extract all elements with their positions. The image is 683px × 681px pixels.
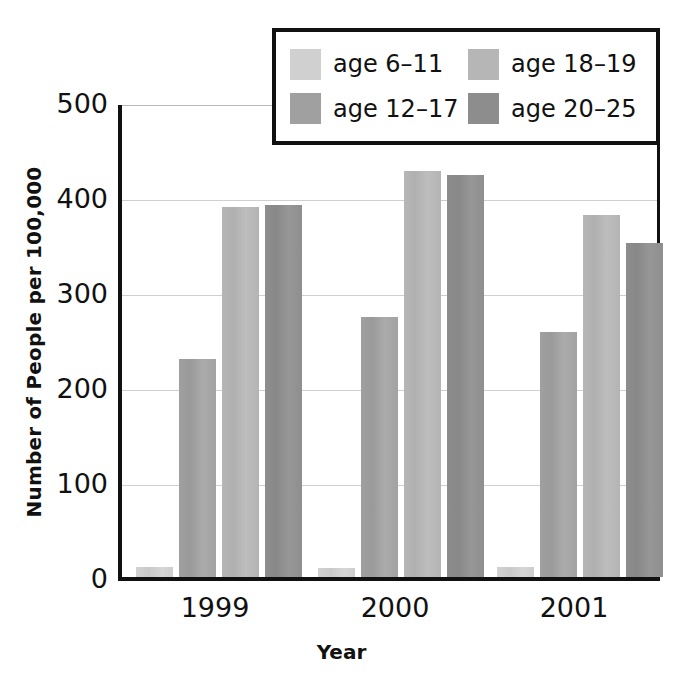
bar-fill xyxy=(583,215,620,577)
bar-fill xyxy=(318,568,355,577)
bar-fill xyxy=(404,171,441,578)
bar-2000-age-20-25[interactable] xyxy=(447,175,484,577)
bar-2001-age-12-17[interactable] xyxy=(540,332,577,577)
bar-2000-age-18-19[interactable] xyxy=(404,171,441,578)
bar-2000-age-12-17[interactable] xyxy=(361,317,398,577)
bar-fill xyxy=(136,567,173,577)
legend-entry-age-12-17[interactable]: age 12–17 xyxy=(290,93,468,124)
legend-swatch-age-18-19 xyxy=(468,49,499,80)
legend-swatch-age-20-25 xyxy=(468,93,499,124)
x-tick-label-2000: 2000 xyxy=(315,592,475,623)
bar-fill xyxy=(361,317,398,577)
bar-2000-age-6-11[interactable] xyxy=(318,568,355,577)
bar-fill xyxy=(540,332,577,577)
bar-fill xyxy=(222,207,259,577)
legend-label-age-20-25: age 20–25 xyxy=(511,95,636,123)
legend-swatch-age-12-17 xyxy=(290,93,321,124)
y-tick-label-500: 500 xyxy=(22,88,108,119)
legend-entry-age-6-11[interactable]: age 6–11 xyxy=(290,49,468,80)
legend-label-age-12-17: age 12–17 xyxy=(333,95,458,123)
bar-2001-age-6-11[interactable] xyxy=(497,567,534,577)
bar-group-2000 xyxy=(318,105,484,577)
y-tick-label-100: 100 xyxy=(22,468,108,499)
bar-1999-age-6-11[interactable] xyxy=(136,567,173,577)
bar-2001-age-20-25[interactable] xyxy=(626,243,663,577)
plot-inner xyxy=(122,105,657,577)
legend-grid: age 6–11 age 18–19 age 12–17 age 20–25 xyxy=(290,42,646,131)
bar-1999-age-18-19[interactable] xyxy=(222,207,259,577)
bar-group-1999 xyxy=(136,105,302,577)
y-tick-label-400: 400 xyxy=(22,183,108,214)
bar-1999-age-20-25[interactable] xyxy=(265,205,302,577)
bar-1999-age-12-17[interactable] xyxy=(179,359,216,577)
x-tick-label-1999: 1999 xyxy=(135,592,295,623)
legend-box: age 6–11 age 18–19 age 12–17 age 20–25 xyxy=(272,28,660,145)
bar-fill xyxy=(626,243,663,577)
x-axis-title: Year xyxy=(0,640,683,664)
bar-fill xyxy=(265,205,302,577)
bar-fill xyxy=(447,175,484,577)
legend-label-age-6-11: age 6–11 xyxy=(333,50,443,78)
y-tick-label-300: 300 xyxy=(22,278,108,309)
bar-2001-age-18-19[interactable] xyxy=(583,215,620,577)
legend-swatch-age-6-11 xyxy=(290,49,321,80)
legend-label-age-18-19: age 18–19 xyxy=(511,50,636,78)
legend-entry-age-20-25[interactable]: age 20–25 xyxy=(468,93,646,124)
y-tick-label-0: 0 xyxy=(22,563,108,594)
y-tick-label-200: 200 xyxy=(22,373,108,404)
legend-entry-age-18-19[interactable]: age 18–19 xyxy=(468,49,646,80)
bar-chart-figure: Number of People per 100,000 500 400 300… xyxy=(0,0,683,681)
bar-group-2001 xyxy=(497,105,663,577)
bar-fill xyxy=(497,567,534,577)
plot-area xyxy=(118,105,660,581)
bar-fill xyxy=(179,359,216,577)
x-tick-label-2001: 2001 xyxy=(494,592,654,623)
